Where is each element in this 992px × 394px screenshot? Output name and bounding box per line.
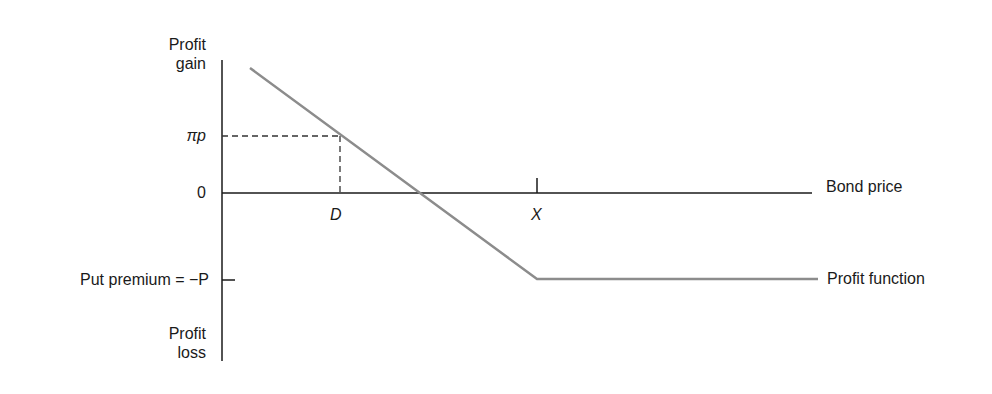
profit-gain-line2: gain (150, 54, 206, 73)
profit-loss-line1: Profit (150, 324, 206, 343)
x-tick-label-X: X (531, 205, 542, 224)
profit-gain-line1: Profit (150, 35, 206, 54)
y-axis-top-label: Profit gain (150, 35, 206, 73)
y-tick-label-put-premium: Put premium = −P (0, 270, 209, 289)
y-axis-bottom-label: Profit loss (150, 324, 206, 362)
put-profit-diagram (0, 0, 992, 394)
y-tick-label-pi-p: πp (150, 126, 206, 145)
curve-label: Profit function (827, 269, 925, 288)
profit-function-curve (250, 68, 818, 279)
profit-loss-line2: loss (150, 343, 206, 362)
y-tick-label-zero: 0 (150, 183, 206, 202)
x-axis-label: Bond price (826, 177, 903, 196)
x-tick-label-D: D (330, 205, 342, 224)
